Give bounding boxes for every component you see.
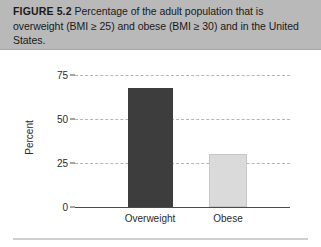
y-axis-tick-label-0: 0 [28, 202, 68, 213]
x-axis-tick-label-obese: Obese [213, 213, 242, 224]
figure-caption-band: FIGURE 5.2 Percentage of the adult popul… [0, 0, 321, 50]
gridline-25 [75, 163, 290, 164]
gridline-50 [75, 119, 290, 120]
bar-overweight [128, 88, 173, 207]
bottom-divider [13, 238, 308, 240]
figure-number-label: FIGURE 5.2 [13, 5, 72, 17]
x-axis-tick-label-overweight: Overweight [125, 213, 176, 224]
y-axis-title: Percent [24, 103, 35, 173]
figure-container: FIGURE 5.2 Percentage of the adult popul… [0, 0, 321, 247]
x-axis-line [75, 207, 290, 208]
y-tick-dash-50 [70, 119, 75, 120]
y-axis-tick-label-75: 75 [28, 70, 68, 81]
y-tick-dash-75 [70, 75, 75, 76]
bar-obese [209, 154, 247, 207]
figure-caption-text: FIGURE 5.2 Percentage of the adult popul… [13, 4, 307, 48]
chart-plot-area: 75 50 25 0 Percent Overweight Obese [0, 50, 321, 247]
y-tick-dash-25 [70, 163, 75, 164]
gridline-75 [75, 75, 290, 76]
